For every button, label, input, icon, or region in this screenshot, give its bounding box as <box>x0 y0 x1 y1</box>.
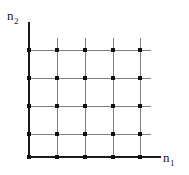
lattice-point <box>55 155 58 158</box>
grid-lines-horizontal <box>29 50 151 134</box>
lattice-point <box>138 48 141 51</box>
lattice-point <box>83 155 86 158</box>
lattice-point <box>138 104 141 107</box>
lattice-point <box>83 104 86 107</box>
lattice-point <box>83 48 86 51</box>
grid-lines-vertical <box>29 38 140 157</box>
lattice-point <box>111 155 114 158</box>
lattice-point <box>27 76 30 79</box>
lattice-point <box>138 132 141 135</box>
lattice-point <box>55 104 58 107</box>
lattice-point <box>27 104 30 107</box>
lattice-point <box>111 104 114 107</box>
lattice-grid-svg <box>0 0 189 175</box>
lattice-point <box>111 76 114 79</box>
lattice-point <box>83 76 86 79</box>
lattice-point <box>27 155 30 158</box>
y-axis-label: n2 <box>7 9 19 26</box>
x-axis-label-subscript: 1 <box>170 158 175 168</box>
x-axis-label: n1 <box>163 151 175 168</box>
x-axis-label-symbol: n <box>163 150 170 165</box>
lattice-point <box>55 48 58 51</box>
lattice-point <box>55 132 58 135</box>
lattice-point <box>138 155 141 158</box>
lattice-point <box>83 132 86 135</box>
lattice-point <box>55 76 58 79</box>
y-axis-label-symbol: n <box>7 8 14 23</box>
lattice-figure: n2 n1 <box>0 0 189 175</box>
lattice-point <box>111 132 114 135</box>
lattice-point <box>138 76 141 79</box>
axes <box>29 22 161 157</box>
lattice-point <box>27 132 30 135</box>
lattice-point <box>27 48 30 51</box>
lattice-point <box>111 48 114 51</box>
y-axis-label-subscript: 2 <box>14 16 19 26</box>
